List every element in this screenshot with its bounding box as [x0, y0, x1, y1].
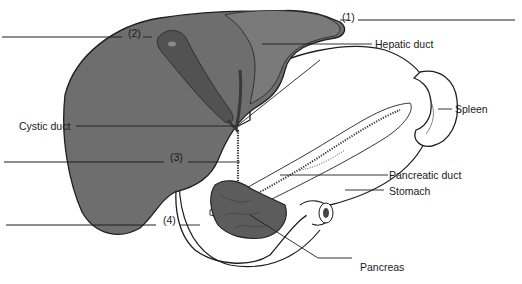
label-spleen: Spleen: [455, 103, 488, 115]
label-number-2: (2): [128, 27, 141, 39]
label-pancreatic-duct: Pancreatic duct: [389, 169, 461, 181]
label-cystic-duct: Cystic duct: [19, 120, 70, 132]
label-stomach: Stomach: [389, 185, 430, 197]
label-number-3: (3): [170, 151, 183, 163]
organ-illustration: [0, 0, 522, 284]
label-pancreas: Pancreas: [360, 261, 404, 273]
label-hepatic-duct: Hepatic duct: [375, 38, 433, 50]
anatomy-diagram: (1) (2) Hepatic duct Cystic duct Spleen …: [0, 0, 522, 284]
label-number-4: (4): [163, 214, 176, 226]
label-number-1: (1): [342, 11, 355, 23]
